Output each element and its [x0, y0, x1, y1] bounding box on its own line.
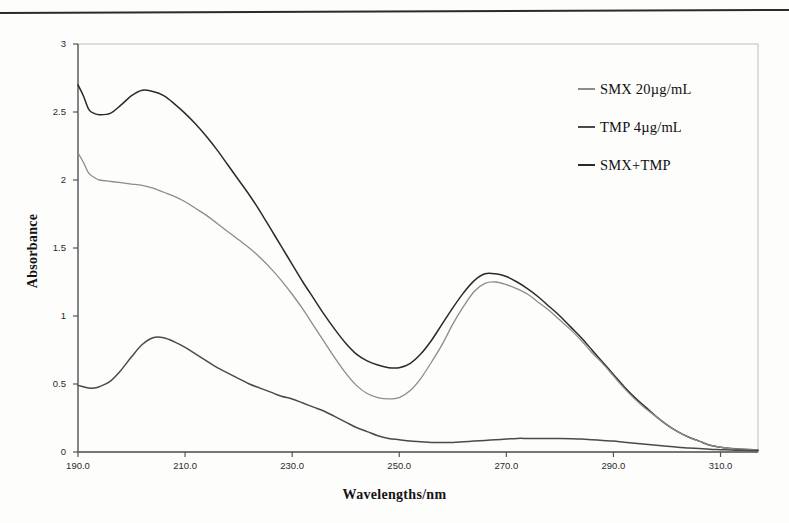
x-tick-label: 290.0 [589, 460, 637, 471]
x-tick-label: 310.0 [697, 460, 745, 471]
y-tick-label: 2.5 [40, 106, 66, 117]
x-tick-label: 230.0 [268, 460, 316, 471]
legend-item-0: SMX 20µg/mL [578, 70, 778, 108]
y-tick-label: 2 [40, 174, 66, 185]
y-tick-label: 0.5 [40, 378, 66, 389]
y-tick-label: 0 [40, 446, 66, 457]
y-axis-title: Absorbance [25, 171, 41, 331]
page-background: Absorbance Wavelengths/nm 190.0210.0230.… [0, 0, 789, 523]
series-line-tmp [78, 337, 758, 451]
legend-line-icon [578, 126, 595, 128]
y-tick-label: 1.5 [40, 242, 66, 253]
x-tick-label: 250.0 [375, 460, 423, 471]
x-axis-title: Wavelengths/nm [0, 487, 789, 503]
y-tick-label: 3 [40, 38, 66, 49]
legend-label: SMX 20 [600, 81, 651, 98]
legend-unit: µg/mL [641, 119, 682, 136]
x-tick-label: 270.0 [482, 460, 530, 471]
legend-line-icon [578, 88, 595, 90]
absorbance-spectra-figure: Absorbance Wavelengths/nm 190.0210.0230.… [0, 0, 789, 523]
legend-item-1: TMP 4µg/mL [578, 108, 778, 146]
legend-line-icon [578, 164, 595, 166]
legend-item-2: SMX+TMP [578, 146, 778, 184]
x-tick-label: 190.0 [54, 460, 102, 471]
legend-label: TMP 4 [600, 119, 641, 136]
chart-legend: SMX 20µg/mLTMP 4µg/mLSMX+TMP [578, 70, 778, 184]
series-line-smx [78, 153, 758, 450]
x-tick-label: 210.0 [161, 460, 209, 471]
legend-unit: µg/mL [651, 81, 692, 98]
y-tick-label: 1 [40, 310, 66, 321]
legend-label: SMX+TMP [600, 157, 671, 174]
